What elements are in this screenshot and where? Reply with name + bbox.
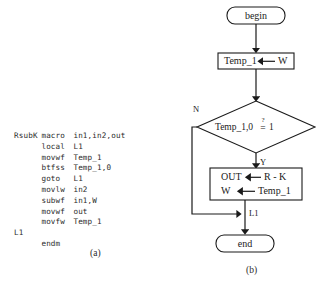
node-end-label: end [238,238,252,249]
code-arg: L1 [73,142,82,153]
code-op: movlw [41,185,73,196]
code-line: subwfin1,W [14,196,164,207]
node-process-w-lhs: W [221,185,231,196]
code-line: movwfout [14,207,164,218]
code-op: btfss [41,163,73,174]
code-line: movwfTemp_1 [14,153,164,164]
code-label: RsubK [14,131,41,142]
assembly-code-panel: RsubKmacroin1,in2,outlocalL1movwfTemp_1b… [14,131,164,250]
node-process-out-lhs: OUT [221,171,242,182]
code-line: localL1 [14,142,164,153]
code-arg: in1,in2,out [73,131,125,142]
code-line: endm [14,239,164,250]
code-arg: out [73,207,87,218]
node-decision-lhs: Temp_1,0 [215,122,253,132]
code-op: endm [41,239,73,250]
code-op: subwf [41,196,73,207]
code-label: L1 [14,228,41,239]
code-op: movwf [41,207,73,218]
code-line: gotoL1 [14,174,164,185]
assembly-code-listing: RsubKmacroin1,in2,outlocalL1movwfTemp_1b… [14,131,164,250]
flowchart-panel: begin Temp_1 W Temp_1,0 = ? 1 [165,0,329,289]
flowchart-svg: begin Temp_1 W Temp_1,0 = ? 1 [165,0,329,289]
node-decision-operator: = [260,123,265,133]
code-arg: L1 [73,174,82,185]
node-end: end [216,235,274,252]
code-line: movfwTemp_1 [14,217,164,228]
edge-label-no: N [193,104,199,114]
figure-root: RsubKmacroin1,in2,outlocalL1movwfTemp_1b… [0,0,329,289]
node-decision-question-mark: ? [261,116,264,124]
code-op: goto [41,174,73,185]
node-assign-temp-lhs: Temp_1 [224,55,257,66]
node-process-w-rhs: Temp_1 [258,185,291,196]
code-line: RsubKmacroin1,in2,out [14,131,164,142]
node-assign-temp: Temp_1 W [218,53,294,69]
code-op: movwf [41,153,73,164]
node-begin: begin [227,7,285,24]
code-line: btfssTemp_1,0 [14,163,164,174]
node-begin-label: begin [245,10,267,21]
edge-label-yes: Y [260,157,266,167]
node-process-out: OUT R - K W Temp_1 [210,168,302,200]
node-assign-temp-rhs: W [278,55,288,66]
code-arg: in1,W [73,196,97,207]
code-op: movfw [41,217,73,228]
code-arg: Temp_1 [73,153,101,164]
node-decision-rhs: 1 [269,122,274,132]
code-op: local [41,142,73,153]
node-decision: Temp_1,0 = ? 1 [197,101,315,153]
code-line: L1 [14,228,164,239]
node-process-out-rhs: R - K [264,171,287,182]
code-op: macro [41,131,73,142]
code-line: movlwin2 [14,185,164,196]
caption-panel-b: (b) [246,265,257,275]
edge-label-join-l1: L1 [249,208,258,218]
caption-panel-a: (a) [90,248,101,258]
code-arg: Temp_1 [73,217,101,228]
code-arg: in2 [73,185,87,196]
code-arg: Temp_1,0 [73,163,111,174]
